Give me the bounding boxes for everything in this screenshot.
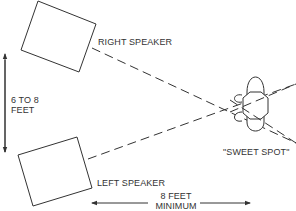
listening-distance-label-line2: MINIMUM (148, 201, 204, 211)
left-ear (235, 95, 243, 102)
speaker-spacing-label-line1: 6 TO 8 (11, 95, 39, 105)
speaker-placement-diagram: RIGHT SPEAKER LEFT SPEAKER 6 TO 8 FEET "… (0, 0, 296, 211)
right-speaker (21, 1, 96, 72)
listening-distance-label-line1: 8 FEET (152, 191, 200, 201)
left-speaker (18, 137, 92, 206)
shoulders-outline (243, 92, 268, 119)
right-ear (235, 112, 243, 121)
listener-head (230, 77, 296, 143)
sweet-spot-label: "SWEET SPOT" (223, 147, 289, 157)
left-speaker-label: LEFT SPEAKER (97, 178, 165, 188)
speaker-spacing-label-line2: FEET (11, 105, 34, 115)
right-speaker-label: RIGHT SPEAKER (98, 37, 172, 47)
